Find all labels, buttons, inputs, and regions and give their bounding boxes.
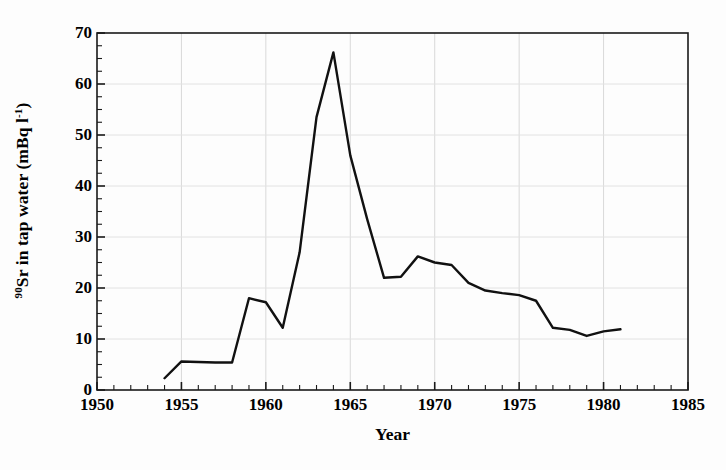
- chart-figure: 90Sr in tap water (mBq l-1) 010203040506…: [0, 0, 726, 470]
- gridlines: [97, 33, 688, 390]
- plot-frame: [97, 33, 688, 390]
- data-series-line: [165, 52, 621, 378]
- axis-ticks: [97, 33, 688, 390]
- plot-area: [0, 0, 726, 470]
